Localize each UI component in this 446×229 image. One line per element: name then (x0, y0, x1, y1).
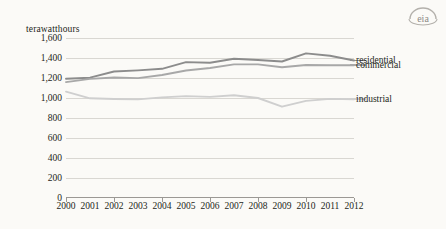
series-lines (66, 38, 354, 198)
x-tick-label: 2010 (297, 202, 316, 212)
x-tick-label: 2009 (273, 202, 292, 212)
y-axis-tick-labels: 1,6001,4001,2001,0008006004002000 (0, 38, 62, 198)
y-tick-label: 1,600 (41, 34, 62, 44)
x-tick-label: 2006 (201, 202, 220, 212)
x-tick-label: 2003 (129, 202, 148, 212)
y-tick-label: 600 (48, 134, 62, 144)
y-tick-label: 800 (48, 114, 62, 124)
x-tick-label: 2005 (177, 202, 196, 212)
y-tick-label: 1,400 (41, 54, 62, 64)
legend-item-commercial[interactable]: commercial (356, 61, 401, 71)
x-tick-label: 2001 (81, 202, 100, 212)
series-line-residential (66, 53, 354, 78)
plot-area (66, 38, 354, 198)
y-tick-label: 1,200 (41, 74, 62, 84)
x-tick-label: 2011 (321, 202, 340, 212)
x-tick-label: 2002 (105, 202, 124, 212)
y-tick-label: 400 (48, 154, 62, 164)
x-tick-label: 2008 (249, 202, 268, 212)
x-axis-tick-labels: 2000200120022003200420052006200720082009… (66, 202, 354, 216)
legend-item-industrial[interactable]: industrial (356, 95, 392, 105)
y-tick-label: 1,000 (41, 94, 62, 104)
x-tick-label: 2012 (345, 202, 364, 212)
series-line-industrial (66, 92, 354, 107)
chart-legend: residentialcommercialindustrial (356, 38, 444, 198)
y-tick-label: 200 (48, 174, 62, 184)
x-tick-label: 2004 (153, 202, 172, 212)
chart-container: eia terawatthours 1,6001,4001,2001,00080… (0, 0, 446, 229)
eia-logo: eia (406, 6, 440, 30)
svg-text:eia: eia (417, 13, 429, 24)
x-tick-label: 2000 (57, 202, 76, 212)
x-tick-label: 2007 (225, 202, 244, 212)
